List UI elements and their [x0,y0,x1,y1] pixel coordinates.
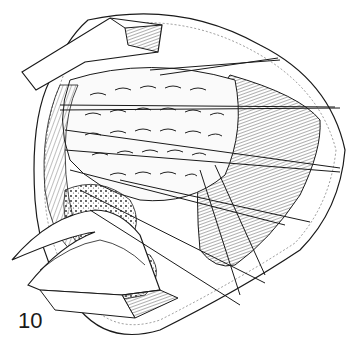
figure-number: 10 [18,308,42,334]
surgical-illustration [0,0,353,350]
organ [63,68,239,201]
